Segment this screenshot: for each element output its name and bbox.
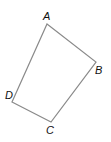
vertex-label-c: C bbox=[46, 124, 54, 136]
quadrilateral-abcd bbox=[12, 24, 96, 122]
vertex-label-b: B bbox=[95, 64, 102, 76]
diagram-svg: A B C D bbox=[0, 0, 111, 142]
vertex-label-d: D bbox=[5, 89, 13, 101]
quadrilateral-diagram: A B C D bbox=[0, 0, 111, 142]
vertex-label-a: A bbox=[42, 10, 50, 22]
